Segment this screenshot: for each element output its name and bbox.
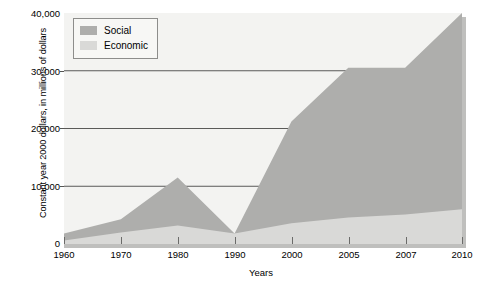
legend-swatch-social-icon [80,26,97,35]
x-tick-mark-2010 [462,237,463,244]
x-tick-mark-1960 [64,237,65,244]
x-tick-mark-2005 [349,237,350,244]
legend-swatch-economic-icon [80,41,97,50]
x-tick-label-2010: 2010 [439,250,477,260]
x-tick-label-1960: 1960 [41,250,87,260]
x-tick-label-2007: 2007 [383,250,429,260]
x-tick-label-1970: 1970 [98,250,144,260]
x-tick-mark-2007 [406,237,407,244]
x-axis-title: Years [56,267,466,278]
legend-label-economic: Economic [104,40,148,51]
x-tick-label-1980: 1980 [155,250,201,260]
legend-item-economic: Economic [80,38,148,53]
x-tick-mark-2000 [292,237,293,244]
x-tick-label-1990: 1990 [212,250,258,260]
x-tick-mark-1990 [235,237,236,244]
x-tick-label-2005: 2005 [326,250,372,260]
legend-item-social: Social [80,23,148,38]
x-tick-label-2000: 2000 [269,250,315,260]
x-tick-mark-1970 [121,237,122,244]
legend-label-social: Social [104,25,131,36]
chart-legend: Social Economic [73,18,158,59]
x-tick-mark-1980 [178,237,179,244]
